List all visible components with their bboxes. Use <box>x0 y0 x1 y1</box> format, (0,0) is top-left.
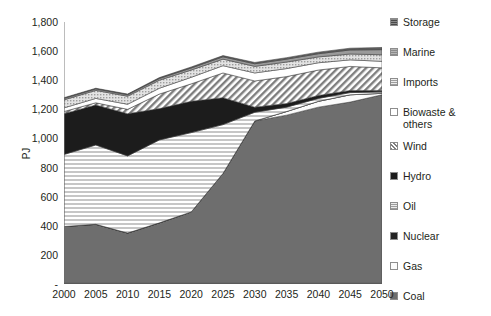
legend-swatch-gas-icon <box>390 262 398 270</box>
legend-swatch-oil-icon <box>390 202 398 210</box>
legend-item-storage[interactable]: Storage <box>390 16 490 28</box>
legend-item-wind[interactable]: Wind <box>390 140 490 152</box>
legend-swatch-hydro-icon <box>390 172 398 180</box>
y-axis-tick-label: 1,000 <box>14 133 58 143</box>
legend-label: Storage <box>403 16 440 28</box>
legend-item-nuclear[interactable]: Nuclear <box>390 230 490 242</box>
legend-label: Oil <box>403 200 416 212</box>
legend-swatch-storage-icon <box>390 18 398 26</box>
legend-label: Biowaste & others <box>403 106 456 130</box>
legend-label: Marine <box>403 46 435 58</box>
legend-label: Nuclear <box>403 230 439 242</box>
legend-swatch-nuclear-icon <box>390 232 398 240</box>
chart-legend: StorageMarineImportsBiowaste & othersWin… <box>390 12 490 304</box>
legend-label: Wind <box>403 140 427 152</box>
y-axis-tick-label: 600 <box>14 192 58 202</box>
legend-swatch-marine-icon <box>390 48 398 56</box>
y-axis-tick-label: 200 <box>14 250 58 260</box>
y-axis-tick-label: 400 <box>14 221 58 231</box>
legend-item-gas[interactable]: Gas <box>390 260 490 272</box>
plot-area <box>64 22 382 284</box>
legend-item-coal[interactable]: Coal <box>390 290 490 302</box>
legend-label: Hydro <box>403 170 431 182</box>
legend-label: Imports <box>403 76 438 88</box>
legend-item-biowaste-others[interactable]: Biowaste & others <box>390 106 490 130</box>
legend-item-hydro[interactable]: Hydro <box>390 170 490 182</box>
y-axis-ticks: -2004006008001,0001,2001,4001,6001,800 <box>12 0 58 316</box>
legend-swatch-imports-icon <box>390 78 398 86</box>
legend-label: Gas <box>403 260 422 272</box>
x-axis-tick-label: 2050 <box>362 288 402 300</box>
plot-svg <box>64 22 382 284</box>
y-axis-tick-label: 800 <box>14 163 58 173</box>
stacked-area-chart: PJ -2004006008001,0001,2001,4001,6001,80… <box>0 0 491 316</box>
y-axis-tick-label: 1,600 <box>14 46 58 56</box>
legend-item-oil[interactable]: Oil <box>390 200 490 212</box>
legend-item-marine[interactable]: Marine <box>390 46 490 58</box>
y-axis-tick-label: 1,200 <box>14 104 58 114</box>
legend-swatch-wind-icon <box>390 142 398 150</box>
y-axis-tick-label: 1,400 <box>14 75 58 85</box>
legend-swatch-biowaste-others-icon <box>390 108 398 116</box>
legend-label: Coal <box>403 290 425 302</box>
y-axis-tick-label: 1,800 <box>14 17 58 27</box>
legend-item-imports[interactable]: Imports <box>390 76 490 88</box>
